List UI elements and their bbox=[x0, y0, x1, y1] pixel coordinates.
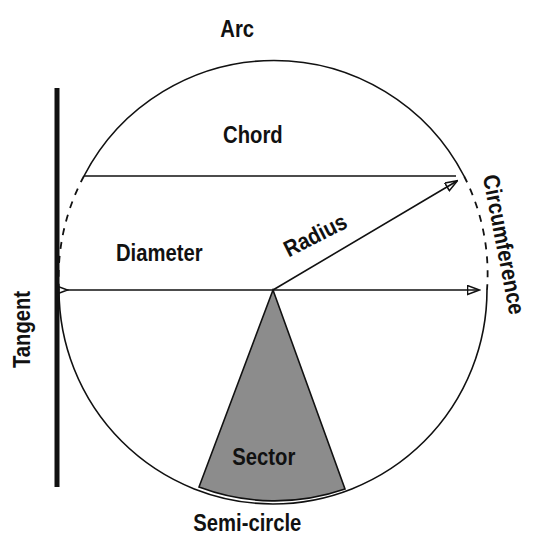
label-chord: Chord bbox=[223, 124, 283, 147]
label-semi-circle: Semi-circle bbox=[193, 512, 301, 535]
label-diameter: Diameter bbox=[116, 242, 203, 265]
circle-parts-diagram: Arc Chord Diameter Radius Tangent Circum… bbox=[0, 0, 539, 542]
label-sector: Sector bbox=[232, 446, 295, 469]
arc-upper-solid bbox=[84, 60, 464, 176]
label-tangent: Tangent bbox=[11, 291, 34, 368]
circumference-dashed-left bbox=[59, 176, 84, 290]
label-arc: Arc bbox=[220, 18, 254, 41]
